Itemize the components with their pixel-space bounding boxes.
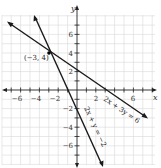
y-axis-arrow-down-icon <box>75 163 79 168</box>
y-tick-label: 6 <box>69 31 74 39</box>
x-axis-arrow-left-icon <box>2 88 7 92</box>
x-tick-label: −2 <box>50 95 60 103</box>
coordinate-plane: −6 −4 −2 2 6 6 4 2 −2 −4 −6 y x (−3, 4) … <box>0 0 161 168</box>
x-tick-label: −4 <box>31 95 42 103</box>
y-tick-label: 2 <box>69 68 73 76</box>
arrowhead-icon <box>7 22 14 28</box>
intersection-label: (−3, 4) <box>24 54 49 62</box>
y-tick-label: −6 <box>63 142 74 150</box>
y-axis-label: y <box>70 4 76 13</box>
equation-label-line2: 2x + y = −2 <box>82 105 108 148</box>
x-tick-label: −6 <box>12 95 23 103</box>
arrowhead-icon <box>142 113 149 119</box>
x-tick-label: 6 <box>131 95 136 103</box>
x-axis-label: x <box>153 93 158 102</box>
line-2x-plus-3y-eq-6 <box>9 23 146 117</box>
x-tick-label: 2 <box>94 95 98 103</box>
y-tick-label: 4 <box>69 50 74 58</box>
y-tick-label: −4 <box>63 124 74 132</box>
y-axis-arrow-icon <box>75 5 79 10</box>
x-axis-arrow-icon <box>152 88 157 92</box>
y-tick-label: −2 <box>63 105 73 113</box>
